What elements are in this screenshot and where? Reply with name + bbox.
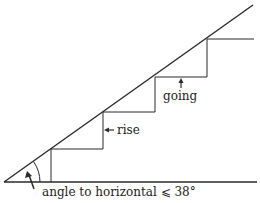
angle-arc xyxy=(34,162,41,183)
pitch-line xyxy=(4,5,253,182)
going-label: going xyxy=(163,90,197,102)
rise-label: rise xyxy=(117,124,140,136)
angle-arrow-head-icon xyxy=(25,171,32,178)
stair-diagram xyxy=(0,0,260,203)
rise-arrow-head-icon xyxy=(104,128,109,133)
stair-steps xyxy=(51,39,254,182)
angle-label: angle to horizontal ⩽ 38° xyxy=(42,186,196,198)
going-arrow-head-icon xyxy=(179,78,184,83)
